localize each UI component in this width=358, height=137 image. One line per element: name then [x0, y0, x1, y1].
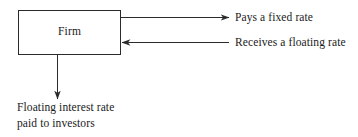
diagram-canvas: Firm Pays a fixed rate Receives a floati…	[0, 0, 358, 137]
caption-floating-interest-to-investors: Floating interest rate paid to investors	[17, 99, 114, 131]
edge-label-receives-floating-rate: Receives a floating rate	[235, 35, 346, 49]
caption-line-1: Floating interest rate	[17, 99, 114, 115]
caption-line-2: paid to investors	[17, 115, 114, 131]
edge-label-pays-fixed-rate: Pays a fixed rate	[235, 10, 313, 24]
